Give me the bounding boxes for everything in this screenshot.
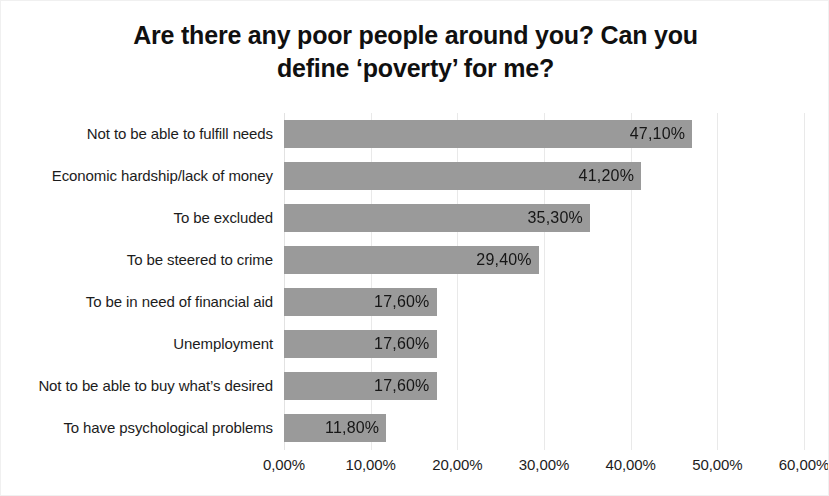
bar[interactable]: 41,20%	[284, 162, 641, 190]
x-tick-label: 30,00%	[519, 456, 569, 473]
category-label: Not to be able to fulfill needs	[1, 113, 273, 155]
plot-area: 47,10%41,20%35,30%29,40%17,60%17,60%17,6…	[284, 113, 804, 450]
bar-row: 11,80%	[284, 407, 804, 449]
category-label: Not to be able to buy what’s desired	[1, 365, 273, 407]
bar-row: 17,60%	[284, 281, 804, 323]
x-tick-label: 0,00%	[263, 456, 305, 473]
bar[interactable]: 17,60%	[284, 288, 437, 316]
bar-value-label: 35,30%	[527, 209, 582, 227]
bar[interactable]: 11,80%	[284, 414, 386, 442]
category-axis: Not to be able to fulfill needsEconomic …	[1, 113, 273, 450]
bar-value-label: 17,60%	[374, 293, 429, 311]
x-axis-tick-labels: 0,00%10,00%20,00%30,00%40,00%50,00%60,00…	[284, 456, 804, 482]
bar-row: 47,10%	[284, 113, 804, 155]
bar-row: 17,60%	[284, 365, 804, 407]
gridline	[804, 113, 805, 450]
bar-value-label: 47,10%	[630, 125, 685, 143]
bar-row: 41,20%	[284, 155, 804, 197]
bar-value-label: 17,60%	[374, 335, 429, 353]
bar[interactable]: 29,40%	[284, 246, 539, 274]
bar-chart-figure: Are there any poor people around you? Ca…	[0, 0, 829, 496]
category-label: Unemployment	[1, 323, 273, 365]
bar-value-label: 11,80%	[325, 419, 379, 437]
chart-title: Are there any poor people around you? Ca…	[61, 19, 770, 85]
bar[interactable]: 35,30%	[284, 204, 590, 232]
category-label: Economic hardship/lack of money	[1, 155, 273, 197]
category-label: To be excluded	[1, 197, 273, 239]
bar[interactable]: 17,60%	[284, 330, 437, 358]
x-tick-label: 10,00%	[346, 456, 396, 473]
x-tick-label: 20,00%	[432, 456, 482, 473]
bar-value-label: 41,20%	[579, 167, 634, 185]
bar-row: 17,60%	[284, 323, 804, 365]
category-label: To be steered to crime	[1, 239, 273, 281]
bar-value-label: 17,60%	[374, 377, 429, 395]
category-label: To be in need of financial aid	[1, 281, 273, 323]
bar-value-label: 29,40%	[476, 251, 531, 269]
bar-row: 29,40%	[284, 239, 804, 281]
x-tick-label: 40,00%	[606, 456, 656, 473]
category-label: To have psychological problems	[1, 407, 273, 449]
bar[interactable]: 17,60%	[284, 372, 437, 400]
bar[interactable]: 47,10%	[284, 120, 692, 148]
x-tick-label: 60,00%	[779, 456, 829, 473]
x-tick-label: 50,00%	[692, 456, 742, 473]
bar-row: 35,30%	[284, 197, 804, 239]
bar-series: 47,10%41,20%35,30%29,40%17,60%17,60%17,6…	[284, 113, 804, 450]
